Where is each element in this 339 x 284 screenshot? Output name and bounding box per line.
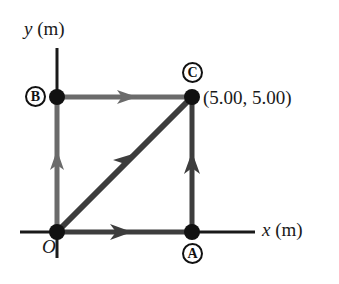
point-dot-b bbox=[49, 89, 65, 105]
point-badge-a: A bbox=[182, 243, 203, 264]
y-axis-label: y (m) bbox=[24, 19, 65, 38]
origin-label: O bbox=[42, 237, 56, 256]
point-badge-c: C bbox=[182, 62, 203, 83]
point-dot-a bbox=[184, 224, 200, 240]
point-c-coordinates-label: (5.00, 5.00) bbox=[203, 88, 292, 107]
x-axis-unit: (m) bbox=[275, 219, 302, 240]
y-axis-unit: (m) bbox=[37, 18, 64, 39]
physics-path-diagram: y (m) x (m) O (5.00, 5.00) A B C bbox=[0, 0, 339, 284]
x-axis-label: x (m) bbox=[262, 220, 303, 239]
point-dot-c bbox=[184, 89, 200, 105]
point-badge-b: B bbox=[25, 86, 46, 107]
